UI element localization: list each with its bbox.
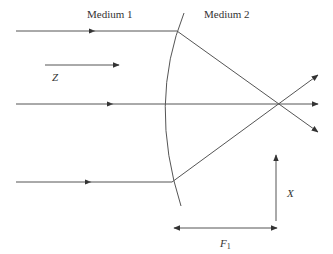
medium1-label: Medium 1 — [87, 8, 133, 20]
optics-diagram: Medium 1 Medium 2 Z X F1 — [0, 0, 333, 254]
medium2-label: Medium 2 — [204, 8, 250, 20]
focal-length-subscript: 1 — [227, 242, 231, 251]
z-label: Z — [52, 71, 59, 83]
x-label: X — [286, 187, 295, 199]
refracted-ray-bottom — [172, 75, 318, 182]
refracted-ray-top — [177, 31, 318, 132]
refracting-surface — [165, 13, 184, 206]
focal-length-label: F1 — [219, 237, 231, 251]
